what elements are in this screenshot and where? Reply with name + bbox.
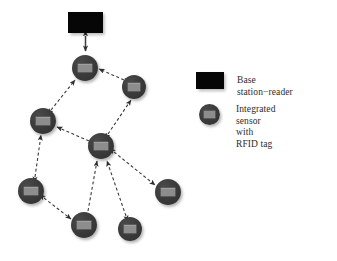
sensor-node-n6 <box>71 212 97 238</box>
rfid-tag-icon <box>203 110 216 118</box>
edge-n4-n3 <box>57 127 89 141</box>
edge-n4-n8 <box>114 152 155 185</box>
sensor-swatch-icon <box>199 104 220 125</box>
rfid-tag-icon <box>77 63 93 73</box>
edge-n5-n6 <box>44 198 71 219</box>
sensor-node-n7 <box>118 217 142 241</box>
legend-item-sensor: Integrated sensor with RFID tag <box>199 104 276 150</box>
edge-n6-n4 <box>88 161 97 211</box>
edge-n7-n4 <box>107 161 126 216</box>
sensor-node-n5 <box>18 178 44 204</box>
legend-label-sensor: Integrated sensor with RFID tag <box>236 104 276 150</box>
rfid-tag-icon <box>93 141 109 151</box>
edge-n2-n1 <box>99 69 124 80</box>
legend-label-base-station: Base station−reader <box>237 75 293 98</box>
base-station-swatch-icon <box>196 72 224 89</box>
edge-n5-n3 <box>35 135 41 177</box>
edge-n3-n1 <box>51 80 75 110</box>
rfid-tag-icon <box>35 116 51 126</box>
edge-n4-n2 <box>108 100 131 134</box>
sensor-node-n8 <box>155 179 181 205</box>
rfid-tag-icon <box>23 186 39 196</box>
rfid-tag-icon <box>127 82 141 91</box>
rfid-tag-icon <box>123 224 137 233</box>
rfid-tag-icon <box>160 187 176 197</box>
sensor-node-n2 <box>122 75 146 99</box>
sensor-node-n3 <box>30 108 56 134</box>
rfid-tag-icon <box>76 220 92 230</box>
sensor-node-n4-hub <box>88 133 114 159</box>
legend-item-base-station: Base station−reader <box>196 72 293 98</box>
sensor-node-n1 <box>72 55 98 81</box>
base-station-reader <box>68 12 103 33</box>
network-diagram-figure: Base station−reader Integrated sensor wi… <box>0 0 337 261</box>
